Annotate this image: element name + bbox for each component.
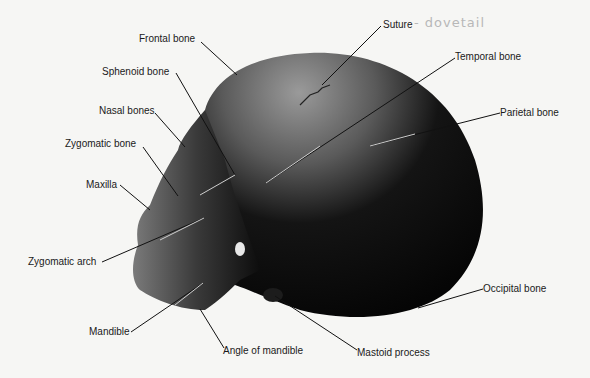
label-zygomatic-bone: Zygomatic bone (65, 138, 136, 150)
label-zygomatic-arch: Zygomatic arch (28, 256, 96, 268)
label-mastoid-process: Mastoid process (357, 347, 430, 359)
handwritten-note: - dovetail (414, 15, 485, 30)
label-suture: Suture (383, 19, 412, 31)
label-temporal-bone: Temporal bone (455, 51, 521, 63)
label-mandible: Mandible (89, 326, 130, 338)
label-frontal-bone: Frontal bone (139, 33, 195, 45)
label-occipital-bone: Occipital bone (483, 283, 546, 295)
label-maxilla: Maxilla (86, 179, 117, 191)
label-parietal-bone: Parietal bone (500, 107, 559, 119)
skull-diagram: - dovetail Frontal bone Sphenoid bone Na… (0, 0, 590, 378)
label-sphenoid-bone: Sphenoid bone (102, 66, 169, 78)
label-nasal-bones: Nasal bones (99, 105, 155, 117)
label-angle-of-mandible: Angle of mandible (223, 345, 303, 357)
